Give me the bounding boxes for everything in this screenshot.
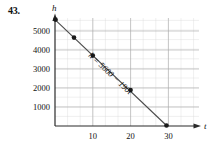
- y-tick-label-1000: 1000: [33, 102, 50, 112]
- equation-annotation: h = 5600 − 190t: [87, 50, 135, 96]
- x-axis-title: t: [204, 121, 207, 131]
- data-point: [72, 35, 77, 40]
- y-tick-label-2000: 2000: [33, 83, 50, 93]
- data-point: [53, 17, 58, 22]
- grid-minor: [55, 18, 199, 126]
- y-tick-label-3000: 3000: [33, 64, 50, 74]
- y-tick-label-5000: 5000: [33, 26, 50, 36]
- y-tick-label-4000: 4000: [33, 45, 50, 55]
- grid-major: [55, 18, 199, 126]
- data-point: [164, 123, 169, 128]
- x-tick-label-20: 20: [126, 131, 135, 141]
- y-axis: [52, 14, 57, 127]
- y-axis-title: h: [52, 3, 57, 13]
- x-axis: [55, 123, 201, 128]
- x-tick-label-30: 30: [164, 131, 173, 141]
- figure-container: 43.: [0, 0, 216, 156]
- x-tick-label-10: 10: [89, 131, 98, 141]
- scatter-plot-figure: h t 1000 2000 3000 4000 5000 10 20 30 h …: [0, 0, 216, 156]
